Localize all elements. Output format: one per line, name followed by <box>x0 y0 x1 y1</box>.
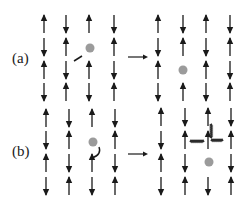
spin-up-arrow-icon <box>86 14 92 33</box>
spin-down-arrow-icon <box>86 83 92 102</box>
spin-up-arrow-icon <box>182 176 188 195</box>
spin-down-arrow-icon <box>227 61 233 80</box>
spin-up-arrow-icon <box>43 153 49 172</box>
string-wave-vertical-icon <box>211 124 213 138</box>
spin-down-arrow-icon <box>43 177 49 196</box>
spin-down-arrow-icon <box>111 15 117 34</box>
spin-down-arrow-icon <box>180 15 186 34</box>
spin-up-arrow-icon <box>227 82 233 101</box>
spin-up-arrow-icon <box>155 60 161 79</box>
spin-down-arrow-icon <box>158 131 164 150</box>
spin-down-arrow-icon <box>155 38 161 57</box>
hole-dot-icon <box>86 44 95 53</box>
hole-dot-icon <box>89 138 98 147</box>
spin-up-arrow-icon <box>89 108 95 127</box>
spin-up-arrow-icon <box>158 107 164 126</box>
spin-up-arrow-icon <box>66 176 72 195</box>
spin-up-arrow-icon <box>112 130 118 149</box>
spin-down-arrow-icon <box>111 61 117 80</box>
string-wave-icon <box>190 141 204 143</box>
string-wave-icon <box>211 140 223 142</box>
spin-hole-diagram <box>0 0 250 200</box>
spin-up-arrow-icon <box>112 176 118 195</box>
panel-a-label: (a) <box>12 50 29 67</box>
spin-down-arrow-icon <box>66 109 72 128</box>
spin-down-arrow-icon <box>158 177 164 196</box>
spin-up-arrow-icon <box>63 37 69 56</box>
spin-down-arrow-icon <box>112 154 118 173</box>
spin-up-arrow-icon <box>41 14 47 33</box>
spin-up-arrow-icon <box>203 14 209 33</box>
spin-down-arrow-icon <box>155 83 161 102</box>
spin-down-arrow-icon <box>182 154 188 173</box>
spin-down-arrow-icon <box>205 177 211 196</box>
spin-up-arrow-icon <box>43 108 49 127</box>
spin-up-arrow-icon <box>111 37 117 56</box>
spin-up-arrow-icon <box>180 37 186 56</box>
spin-down-arrow-icon <box>66 154 72 173</box>
spin-down-arrow-icon <box>227 15 233 34</box>
transition-arrowhead-icon <box>143 55 148 60</box>
spin-down-arrow-icon <box>63 61 69 80</box>
spin-up-arrow-icon <box>111 82 117 101</box>
spin-up-arrow-icon <box>182 130 188 149</box>
spin-up-arrow-icon <box>228 130 234 149</box>
spin-up-arrow-icon <box>203 60 209 79</box>
spin-down-arrow-icon <box>63 15 69 34</box>
spin-down-arrow-icon <box>203 38 209 57</box>
hole-dot-icon <box>179 66 188 75</box>
spin-up-arrow-icon <box>89 153 95 172</box>
hop-arrow-icon <box>74 56 82 61</box>
spin-down-arrow-icon <box>89 177 95 196</box>
hole-dot-icon <box>205 158 214 167</box>
spin-up-arrow-icon <box>180 82 186 101</box>
spin-up-arrow-icon <box>41 60 47 79</box>
spin-up-arrow-icon <box>63 82 69 101</box>
spin-down-arrow-icon <box>41 83 47 102</box>
spin-up-arrow-icon <box>227 37 233 56</box>
spin-down-arrow-icon <box>228 154 234 173</box>
spin-down-arrow-icon <box>182 108 188 127</box>
transition-arrowhead-icon <box>143 152 148 157</box>
spin-up-arrow-icon <box>205 107 211 126</box>
spin-up-arrow-icon <box>228 176 234 195</box>
spin-up-arrow-icon <box>158 153 164 172</box>
spin-up-arrow-icon <box>155 14 161 33</box>
spin-down-arrow-icon <box>43 131 49 150</box>
spin-down-arrow-icon <box>203 83 209 102</box>
panel-b-label: (b) <box>12 143 30 160</box>
spin-up-arrow-icon <box>86 60 92 79</box>
spin-up-arrow-icon <box>66 130 72 149</box>
spin-down-arrow-icon <box>228 108 234 127</box>
spin-down-arrow-icon <box>112 109 118 128</box>
spin-down-arrow-icon <box>41 38 47 57</box>
